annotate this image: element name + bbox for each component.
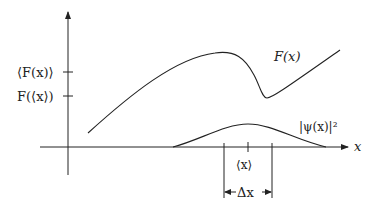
wavefunction-diagram: ⟨F(x)⟩ F(⟨x⟩) F(x) |ψ(x)|² x ⟨x⟩ Δx (0, 0, 386, 209)
delta-x-label: Δx (237, 185, 254, 200)
psi-squared-label: |ψ(x)|² (299, 120, 338, 134)
y-tick-label-F-of-mean: F(⟨x⟩) (17, 89, 54, 104)
x-axis-label: x (354, 139, 362, 154)
y-tick-label-mean-F: ⟨F(x)⟩ (17, 65, 54, 80)
F-curve-label: F(x) (273, 49, 301, 64)
mean-x-label: ⟨x⟩ (236, 158, 252, 172)
